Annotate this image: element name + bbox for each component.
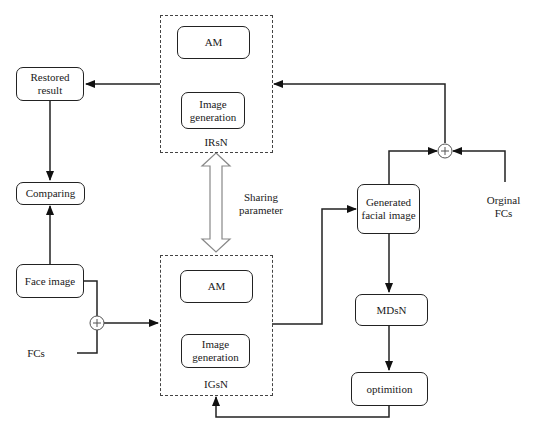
igsn-am-label: AM bbox=[208, 280, 226, 293]
igsn-am-node: AM bbox=[180, 270, 253, 303]
mdsn-label: MDsN bbox=[377, 304, 407, 317]
irsn-label: IRsN bbox=[196, 136, 236, 149]
irsn-image-generation-node: Image generation bbox=[181, 92, 245, 129]
arrow-sum-to-irsn bbox=[274, 84, 445, 143]
igsn-image-generation-node: Image generation bbox=[181, 334, 250, 368]
arrow-igsn-to-generated bbox=[272, 209, 356, 324]
optimition-label: optimition bbox=[367, 383, 413, 396]
face-image-label: Face image bbox=[25, 275, 75, 288]
restored-result-node: Restored result bbox=[16, 67, 84, 101]
arrow-generated-to-sum bbox=[389, 151, 437, 184]
comparing-label: Comparing bbox=[26, 187, 76, 200]
irsn-image-generation-label: Image generation bbox=[185, 98, 241, 124]
generated-facial-image-label: Generated facial image bbox=[361, 196, 416, 222]
restored-result-label: Restored result bbox=[20, 71, 80, 97]
sum-node-right bbox=[438, 144, 452, 158]
arrow-orig-fcs-to-sum bbox=[453, 151, 505, 182]
generated-facial-image-node: Generated facial image bbox=[357, 184, 420, 234]
sharing-parameter-label: Sharing parameter bbox=[236, 191, 286, 217]
sharing-parameter-arrow bbox=[202, 153, 230, 252]
fcs-label: FCs bbox=[22, 347, 50, 360]
optimition-node: optimition bbox=[351, 372, 428, 406]
igsn-label: IGsN bbox=[196, 378, 236, 391]
comparing-node: Comparing bbox=[16, 182, 85, 205]
face-image-node: Face image bbox=[16, 264, 84, 298]
mdsn-node: MDsN bbox=[355, 294, 428, 326]
original-fcs-label: Orginal FCs bbox=[481, 194, 526, 220]
irsn-am-node: AM bbox=[177, 26, 250, 59]
igsn-image-generation-label: Image generation bbox=[185, 338, 246, 364]
irsn-am-label: AM bbox=[205, 36, 223, 49]
sum-node-left bbox=[90, 316, 104, 330]
line-face-to-sum bbox=[84, 281, 97, 316]
line-fcs-to-sum bbox=[77, 330, 97, 353]
